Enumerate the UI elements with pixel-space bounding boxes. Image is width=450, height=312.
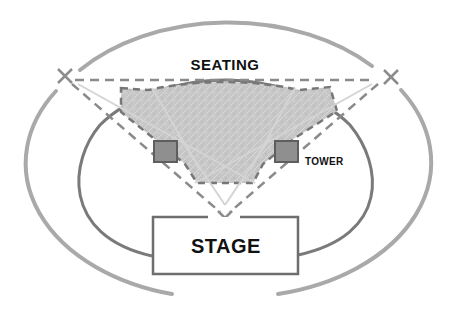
tower-label: TOWER xyxy=(305,156,344,167)
left-tower xyxy=(154,141,177,162)
venue-diagram: SEATING TOWER STAGE xyxy=(0,0,450,312)
left-x-marker xyxy=(58,69,72,83)
right-tower xyxy=(275,141,298,162)
right-x-marker xyxy=(384,70,398,84)
stage-label: STAGE xyxy=(191,235,261,257)
seating-label: SEATING xyxy=(190,56,259,73)
